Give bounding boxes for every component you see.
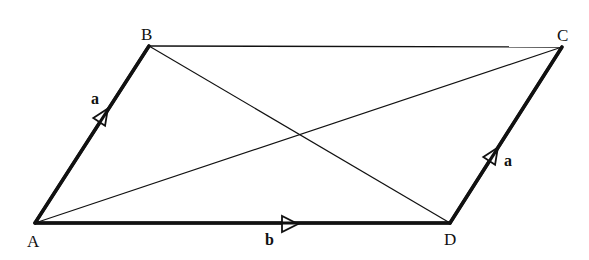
- vertex-label-b: B: [141, 25, 152, 44]
- vector-label-dc: a: [504, 152, 512, 169]
- edge-dc-overlay: [450, 47, 562, 223]
- edge-bc: [149, 46, 562, 47]
- edge-ab-overlay: [35, 46, 149, 223]
- vector-label-ad: b: [265, 231, 274, 248]
- vertex-label-a: A: [27, 232, 40, 251]
- vector-label-ab: a: [91, 90, 99, 107]
- vertex-label-c: C: [557, 26, 568, 45]
- parallelogram-diagram: B C A D a b a: [0, 0, 589, 260]
- diagonal-ac: [35, 47, 562, 223]
- vertex-label-d: D: [444, 230, 456, 249]
- diagonal-bd: [149, 46, 450, 223]
